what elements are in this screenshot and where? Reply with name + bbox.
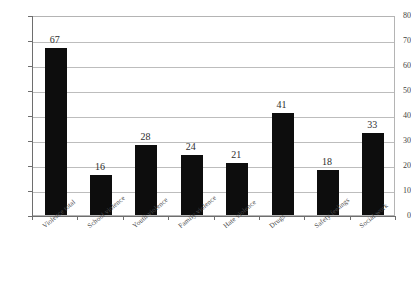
gridline-10 bbox=[33, 192, 394, 193]
bar-value-label: 16 bbox=[80, 162, 120, 172]
bar-value-label: 21 bbox=[216, 150, 256, 160]
y-tick-mark-50 bbox=[28, 91, 32, 92]
y-tick-label-80: 80 bbox=[385, 12, 411, 20]
y-tick-mark-70 bbox=[28, 41, 32, 42]
y-axis-line bbox=[32, 16, 33, 216]
plot-area bbox=[32, 16, 395, 216]
y-tick-label-50: 50 bbox=[385, 87, 411, 95]
bar-chart: 01020304050607080 6716282421411833 Viole… bbox=[0, 0, 411, 282]
x-tick-mark bbox=[304, 216, 305, 220]
y-tick-label-70: 70 bbox=[385, 37, 411, 45]
y-tick-label-10: 10 bbox=[385, 187, 411, 195]
bar bbox=[362, 133, 384, 216]
y-tick-mark-10 bbox=[28, 191, 32, 192]
x-tick-mark bbox=[214, 216, 215, 220]
y-tick-mark-40 bbox=[28, 116, 32, 117]
x-tick-mark bbox=[77, 216, 78, 220]
gridline-30 bbox=[33, 142, 394, 143]
x-tick-mark bbox=[395, 216, 396, 220]
bar-value-label: 18 bbox=[307, 157, 347, 167]
y-tick-label-30: 30 bbox=[385, 137, 411, 145]
bar bbox=[45, 48, 67, 216]
y-tick-mark-30 bbox=[28, 141, 32, 142]
y-tick-label-0: 0 bbox=[385, 212, 411, 220]
bar bbox=[272, 113, 294, 216]
x-tick-mark bbox=[32, 216, 33, 220]
x-tick-mark bbox=[350, 216, 351, 220]
gridline-50 bbox=[33, 92, 394, 93]
bar-value-label: 41 bbox=[262, 100, 302, 110]
bar-value-label: 33 bbox=[352, 120, 392, 130]
gridline-70 bbox=[33, 42, 394, 43]
bar-value-label: 67 bbox=[35, 35, 75, 45]
y-tick-mark-20 bbox=[28, 166, 32, 167]
gridline-60 bbox=[33, 67, 394, 68]
y-tick-label-20: 20 bbox=[385, 162, 411, 170]
bar-value-label: 24 bbox=[171, 142, 211, 152]
x-tick-mark bbox=[168, 216, 169, 220]
y-tick-label-60: 60 bbox=[385, 62, 411, 70]
x-tick-mark bbox=[259, 216, 260, 220]
bar-value-label: 28 bbox=[125, 132, 165, 142]
gridline-40 bbox=[33, 117, 394, 118]
x-tick-mark bbox=[123, 216, 124, 220]
y-tick-mark-60 bbox=[28, 66, 32, 67]
y-tick-mark-80 bbox=[28, 16, 32, 17]
